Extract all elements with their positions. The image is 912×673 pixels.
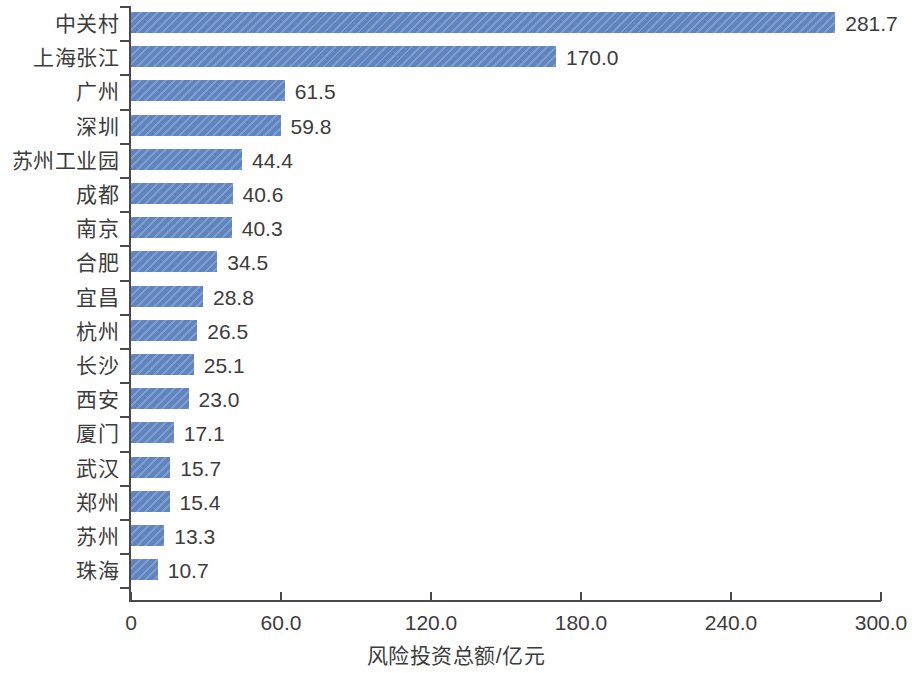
category-label: 长沙 (0, 355, 119, 376)
x-axis-tick-label: 120.0 (405, 612, 458, 633)
bar (131, 251, 217, 272)
bar-value-label: 170.0 (566, 47, 619, 68)
category-label: 合肥 (0, 252, 119, 273)
bar (131, 217, 232, 238)
category-label: 厦门 (0, 423, 119, 444)
y-axis-tick (120, 485, 130, 487)
y-axis-tick (120, 6, 130, 8)
bar-value-label: 40.6 (243, 184, 284, 205)
bar-value-label: 10.7 (168, 560, 209, 581)
x-axis-tick-label: 180.0 (555, 612, 608, 633)
category-label: 广州 (0, 81, 119, 102)
bar-value-label: 23.0 (199, 389, 240, 410)
bar (131, 149, 242, 170)
x-axis-tick (880, 592, 882, 601)
y-axis-tick (120, 143, 130, 145)
bar-value-label: 26.5 (207, 321, 248, 342)
bar-value-label: 281.7 (845, 13, 898, 34)
y-axis-tick (120, 109, 130, 111)
x-axis-tick (280, 592, 282, 601)
bar-value-label: 15.4 (180, 492, 221, 513)
category-label: 苏州 (0, 526, 119, 547)
x-axis-tick (730, 592, 732, 601)
x-axis-tick-label: 300.0 (855, 612, 908, 633)
category-label: 深圳 (0, 116, 119, 137)
category-label: 杭州 (0, 321, 119, 342)
x-axis-title: 风险投资总额/亿元 (0, 645, 912, 667)
y-axis-tick (120, 382, 130, 384)
bar (131, 422, 174, 443)
bar (131, 559, 158, 580)
bar (131, 457, 170, 478)
plot-area: 中关村上海张江广州深圳苏州工业园成都南京合肥宜昌杭州长沙西安厦门武汉郑州苏州珠海… (0, 0, 912, 673)
bar (131, 388, 189, 409)
y-axis-tick (120, 553, 130, 555)
category-label: 珠海 (0, 560, 119, 581)
y-axis-tick (120, 245, 130, 247)
bar-value-label: 61.5 (295, 81, 336, 102)
bar-value-label: 28.8 (213, 287, 254, 308)
x-axis-line (129, 600, 881, 602)
bar-value-label: 13.3 (174, 526, 215, 547)
bar-value-label: 59.8 (291, 116, 332, 137)
x-axis-tick-label: 240.0 (705, 612, 758, 633)
bar-value-label: 15.7 (180, 458, 221, 479)
bar (131, 491, 170, 512)
category-label: 南京 (0, 218, 119, 239)
bar-value-label: 44.4 (252, 150, 293, 171)
bar (131, 115, 281, 136)
category-label: 中关村 (0, 13, 119, 34)
bar-value-label: 40.3 (242, 218, 283, 239)
bar-chart: 中关村上海张江广州深圳苏州工业园成都南京合肥宜昌杭州长沙西安厦门武汉郑州苏州珠海… (0, 0, 912, 673)
x-axis-tick-label: 0 (125, 612, 137, 633)
bar (131, 80, 285, 101)
bar (131, 183, 233, 204)
x-axis-tick (430, 592, 432, 601)
category-label: 上海张江 (0, 47, 119, 68)
y-axis-tick (120, 280, 130, 282)
bar-value-label: 34.5 (227, 252, 268, 273)
x-axis-tick-label: 60.0 (261, 612, 302, 633)
y-axis-tick (120, 416, 130, 418)
category-label: 郑州 (0, 492, 119, 513)
category-label: 西安 (0, 389, 119, 410)
category-label: 武汉 (0, 458, 119, 479)
y-axis-tick (120, 211, 130, 213)
y-axis-tick (120, 177, 130, 179)
x-axis-tick (580, 592, 582, 601)
y-axis-tick (120, 74, 130, 76)
category-label: 成都 (0, 184, 119, 205)
bar (131, 354, 194, 375)
bar (131, 286, 203, 307)
bar (131, 525, 164, 546)
bar (131, 46, 556, 67)
y-axis-tick (120, 348, 130, 350)
category-label: 苏州工业园 (0, 150, 119, 171)
bar-value-label: 25.1 (204, 355, 245, 376)
bar-value-label: 17.1 (184, 423, 225, 444)
x-axis-tick (130, 592, 132, 601)
y-axis-tick (120, 519, 130, 521)
y-axis-tick (120, 587, 130, 589)
category-label: 宜昌 (0, 287, 119, 308)
bar (131, 12, 835, 33)
y-axis-tick (120, 40, 130, 42)
y-axis-tick (120, 451, 130, 453)
bar (131, 320, 197, 341)
y-axis-tick (120, 314, 130, 316)
